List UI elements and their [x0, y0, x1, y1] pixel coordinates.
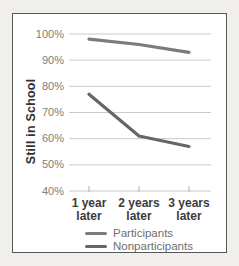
y-tick-label: 80% [13, 80, 64, 93]
series-line-participants [89, 39, 189, 52]
y-tick-label: 60% [13, 132, 64, 145]
legend-item: Participants [85, 227, 193, 240]
y-tick-label: 40% [13, 185, 64, 198]
legend-item: Nonparticipants [85, 240, 193, 253]
y-tick-label: 90% [13, 54, 64, 67]
legend-line-swatch [85, 245, 107, 249]
y-tick-label: 100% [13, 28, 64, 41]
x-category-label: 3 years later [157, 197, 221, 223]
chart-legend: ParticipantsNonparticipants [85, 227, 193, 253]
y-tick-label: 70% [13, 106, 64, 119]
legend-label: Nonparticipants [113, 240, 193, 253]
figure-frame: Still in School 100%90%80%70%60%50%40% 1… [0, 0, 239, 266]
chart-panel: Still in School 100%90%80%70%60%50%40% 1… [12, 13, 227, 253]
y-tick-label: 50% [13, 158, 64, 171]
legend-line-swatch [85, 232, 107, 236]
legend-label: Participants [113, 227, 173, 240]
